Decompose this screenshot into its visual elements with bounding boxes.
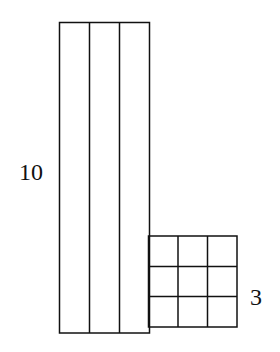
units-grid-outline — [149, 236, 238, 327]
tens-block-outline — [60, 23, 150, 334]
units-label: 3 — [250, 285, 262, 309]
tens-label: 10 — [19, 160, 43, 184]
